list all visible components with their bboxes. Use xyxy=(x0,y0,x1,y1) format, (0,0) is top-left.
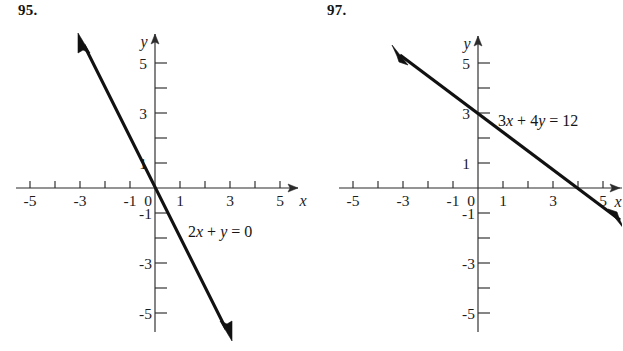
y-tick-label-neg5-97: -5 xyxy=(462,305,475,322)
graph-95: -5 -3 -1 0 1 3 5 5 3 1 -1 -3 -5 x y xyxy=(0,0,311,351)
y-tick-label-neg1-95: -1 xyxy=(139,205,152,222)
y-tick-label-neg5-95: -5 xyxy=(139,305,152,322)
line-arrow-down-icon-95 xyxy=(220,321,232,341)
problem-95: 95. xyxy=(0,0,311,351)
x-tick-label-neg1-95: -1 xyxy=(124,192,137,209)
y-tick-label-neg3-97: -3 xyxy=(462,255,475,272)
x-tick-label-neg3-97: -3 xyxy=(397,192,410,209)
equation-label-95: 2x + y = 0 xyxy=(188,223,252,241)
line-arrow-upleft-icon-97 xyxy=(392,45,408,65)
x-tick-label-3-95: 3 xyxy=(226,192,234,209)
x-tick-label-neg5-95: -5 xyxy=(24,192,37,209)
x-tick-label-neg5-97: -5 xyxy=(347,192,360,209)
y-axis-label-97: y xyxy=(461,35,471,53)
x-tick-label-5-95: 5 xyxy=(276,192,284,209)
plotted-line-97 xyxy=(392,45,622,229)
y-tick-label-5-95: 5 xyxy=(139,55,147,72)
y-tick-label-neg3-95: -3 xyxy=(139,255,152,272)
x-tick-label-1-97: 1 xyxy=(499,192,507,209)
y-tick-label-5-97: 5 xyxy=(462,55,470,72)
x-tick-label-1-95: 1 xyxy=(176,192,184,209)
y-tick-label-3-95: 3 xyxy=(139,105,147,122)
y-tick-label-1-97: 1 xyxy=(462,155,470,172)
x-tick-label-neg1-97: -1 xyxy=(447,192,460,209)
x-axis-label-97: x xyxy=(613,193,621,210)
graph-97: -5 -3 -1 0 1 3 5 5 3 1 -1 -3 -5 x y 3x +… xyxy=(311,0,622,351)
x-axis-label-95: x xyxy=(298,192,306,209)
y-axis-label-95: y xyxy=(138,33,148,51)
worksheet-page: 95. xyxy=(0,0,623,351)
problem-97: 97. xyxy=(311,0,622,351)
equation-label-97: 3x + 4y = 12 xyxy=(498,112,578,130)
x-tick-label-neg3-95: -3 xyxy=(74,192,87,209)
line-arrow-up-icon-95 xyxy=(78,33,90,53)
y-tick-label-neg1-97: -1 xyxy=(462,205,475,222)
x-tick-label-3-97: 3 xyxy=(549,192,557,209)
